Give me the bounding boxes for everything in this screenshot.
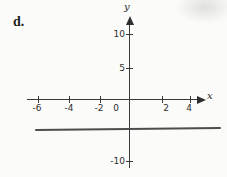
- y-axis: [129, 22, 130, 168]
- y-tick: [126, 161, 133, 162]
- y-tick-label: 5: [99, 63, 125, 73]
- y-tick: [126, 68, 133, 69]
- y-tick-label: -10: [99, 156, 125, 166]
- y-axis-arrow-icon: [126, 16, 134, 25]
- x-tick-label: 2: [156, 103, 176, 113]
- x-tick-label: 0: [106, 103, 126, 113]
- plotted-line-y-equals-minus-5: [35, 127, 221, 131]
- y-axis-label: y: [124, 2, 130, 12]
- x-tick: [190, 96, 191, 103]
- x-axis: [27, 99, 199, 100]
- x-tick-label: -4: [59, 103, 79, 113]
- figure-label: d.: [13, 14, 24, 30]
- y-tick: [126, 34, 133, 35]
- x-tick-label: 4: [179, 103, 199, 113]
- x-axis-label: x: [207, 91, 213, 101]
- x-tick: [162, 96, 163, 103]
- scan-smudge: [175, 0, 227, 24]
- x-tick: [38, 96, 39, 103]
- y-tick-label: 10: [99, 29, 125, 39]
- math-figure: d. y x -6 -4 -2 0 2 4 10 5 -10: [0, 0, 227, 177]
- x-tick-label: -6: [27, 103, 47, 113]
- x-tick: [100, 96, 101, 103]
- x-tick: [69, 96, 70, 103]
